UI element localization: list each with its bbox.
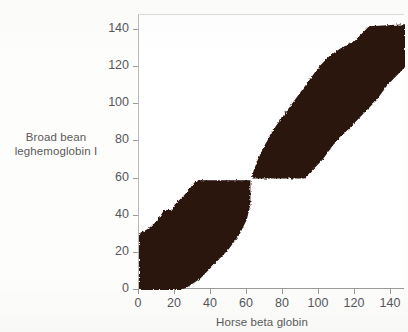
y-tick-label: 40: [103, 207, 129, 221]
y-tick-label: 80: [103, 132, 129, 146]
y-tick-mark: [133, 252, 138, 253]
x-tick-mark: [210, 289, 211, 294]
y-tick-mark: [133, 103, 138, 104]
y-axis-title: Broad bean leghemoglobin I: [4, 130, 108, 158]
y-tick-label: 0: [103, 281, 129, 295]
y-tick-mark: [133, 215, 138, 216]
y-tick-label: 140: [103, 21, 129, 35]
x-tick-label: 80: [267, 296, 297, 310]
x-tick-mark: [390, 289, 391, 294]
band-lower-left-band: [139, 179, 250, 290]
x-tick-label: 60: [231, 296, 261, 310]
similarity-bands: [139, 24, 405, 290]
y-tick-mark: [133, 140, 138, 141]
y-tick-label: 20: [103, 244, 129, 258]
x-tick-mark: [318, 289, 319, 294]
y-tick-mark: [133, 178, 138, 179]
dot-matrix-plot: [139, 15, 405, 290]
x-tick-label: 100: [303, 296, 333, 310]
y-tick-mark: [133, 66, 138, 67]
x-tick-mark: [138, 289, 139, 294]
x-tick-mark: [354, 289, 355, 294]
x-tick-label: 120: [339, 296, 369, 310]
dot-plot-figure: Broad bean leghemoglobin I 0204060801001…: [0, 0, 408, 332]
y-tick-label: 60: [103, 170, 129, 184]
x-tick-mark: [282, 289, 283, 294]
x-tick-label: 140: [375, 296, 405, 310]
band-upper-right-band: [252, 24, 405, 178]
x-tick-mark: [174, 289, 175, 294]
plot-frame: [138, 14, 404, 289]
y-axis-title-line-1: Broad bean: [4, 130, 108, 144]
plot-area: [139, 15, 405, 290]
y-tick-mark: [133, 29, 138, 30]
x-tick-mark: [246, 289, 247, 294]
x-axis-title: Horse beta globin: [138, 316, 386, 328]
y-tick-label: 120: [103, 58, 129, 72]
x-tick-label: 0: [123, 296, 153, 310]
y-axis-title-line-2: leghemoglobin I: [4, 144, 108, 158]
x-tick-label: 40: [195, 296, 225, 310]
y-tick-label: 100: [103, 95, 129, 109]
x-tick-label: 20: [159, 296, 189, 310]
